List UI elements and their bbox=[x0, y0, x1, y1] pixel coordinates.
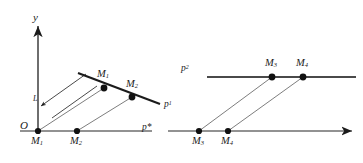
point-label-m4-on-axis: M4 bbox=[221, 136, 233, 147]
m4-line-sub: 4 bbox=[305, 61, 308, 68]
m1-axis-sub: 1 bbox=[40, 139, 43, 146]
vector-arrow-L bbox=[41, 74, 97, 118]
points-right bbox=[196, 74, 307, 135]
m3-axis-base: M bbox=[192, 135, 201, 146]
m2-line-sub: 2 bbox=[135, 82, 138, 89]
m4-line-base: M bbox=[296, 57, 305, 68]
m3-line-base: M bbox=[265, 57, 274, 68]
point-label-m1-on-axis: M1 bbox=[31, 136, 43, 147]
line-p2-label: p2 bbox=[181, 64, 189, 74]
point-label-m2-on-axis: M2 bbox=[70, 136, 82, 147]
vector-arrow-label: L bbox=[33, 95, 37, 103]
point-label-m2-on-line: M2 bbox=[126, 79, 138, 90]
figure-canvas: y O p* L p1 p2 M1 M2 M1 M2 M3 M4 M3 M4 bbox=[0, 0, 363, 163]
diagram-vector-layer bbox=[0, 0, 363, 163]
line-p1-label: p1 bbox=[164, 100, 172, 110]
m1-line-base: M bbox=[97, 68, 106, 79]
line-p1-superscript: 1 bbox=[169, 100, 172, 106]
horizontal-axis-label: p* bbox=[142, 123, 152, 133]
points-left bbox=[35, 85, 136, 135]
point-label-m4-on-line: M4 bbox=[296, 58, 308, 69]
m4-axis-base: M bbox=[221, 135, 230, 146]
line-p1 bbox=[78, 73, 160, 104]
m1-axis-base: M bbox=[31, 135, 40, 146]
line-p2-superscript: 2 bbox=[186, 64, 189, 70]
point-label-m3-on-axis: M3 bbox=[192, 136, 204, 147]
m2-axis-sub: 2 bbox=[79, 139, 82, 146]
m3-line-sub: 3 bbox=[274, 61, 277, 68]
m4-axis-sub: 4 bbox=[230, 139, 233, 146]
origin-label: O bbox=[20, 120, 28, 131]
m2-axis-base: M bbox=[70, 135, 79, 146]
y-axis-label: y bbox=[33, 12, 38, 23]
point-label-m3-on-line: M3 bbox=[265, 58, 277, 69]
m2-line-base: M bbox=[126, 78, 135, 89]
point-label-m1-on-line: M1 bbox=[97, 69, 109, 80]
m1-line-sub: 1 bbox=[106, 72, 109, 79]
m3-axis-sub: 3 bbox=[201, 139, 204, 146]
projection-lines-right bbox=[199, 77, 303, 131]
